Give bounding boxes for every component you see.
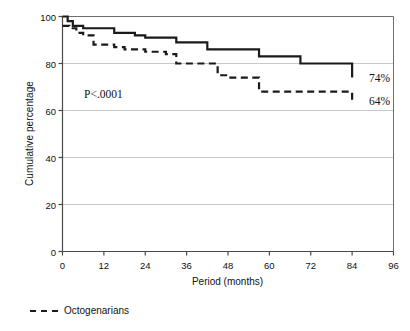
y-axis-title: Cumulative percentage [24,54,35,214]
legend: Octogenarians [30,305,129,316]
y-tick-label: 0 [30,246,56,257]
endpoint-label-octogenarians: 64% [369,95,390,107]
x-axis-title: Period (months) [62,276,393,287]
survival-curve-figure: Cumulative percentage 020406080100 01224… [0,0,410,331]
x-tick-label: 96 [388,260,399,271]
legend-dashed-line-swatch [30,310,58,312]
legend-item-label-octogenarians: Octogenarians [64,305,129,316]
x-tick-label: 36 [181,260,192,271]
p-value-annotation: P<.0001 [84,88,123,100]
y-tick-label: 60 [30,105,56,116]
series-line-nonoctogenarians [63,17,353,78]
x-tick-label: 24 [140,260,151,271]
x-tick-label: 0 [60,260,65,271]
y-tick-label: 80 [30,58,56,69]
x-tick-label: 60 [264,260,275,271]
y-tick-label: 40 [30,152,56,163]
y-tick-label: 20 [30,199,56,210]
y-tick-label: 100 [30,11,56,22]
x-tick-label: 12 [99,260,110,271]
x-tick-label: 84 [347,260,358,271]
x-tick-label: 48 [223,260,234,271]
x-tick-label: 72 [305,260,316,271]
endpoint-label-nonoctogenarians: 74% [369,72,390,84]
